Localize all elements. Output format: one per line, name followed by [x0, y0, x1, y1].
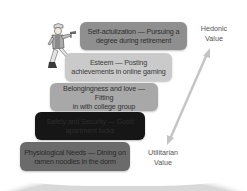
- hierarchy-level-safety: Safety and Security — Good apartment loc…: [35, 112, 145, 140]
- hedonic-label-line1: Hedonic: [196, 24, 232, 34]
- hierarchy-level-belongingness: Belongingness and love — Fitting in with…: [50, 83, 158, 111]
- level-text-line2: achievements in online gaming: [71, 67, 165, 76]
- level-text-line2: apartment locks: [46, 126, 133, 135]
- level-text-line2: ramen noodles in the dorm: [24, 157, 126, 166]
- hedonic-value-label: Hedonic Value: [196, 24, 232, 44]
- page-background: [0, 172, 247, 186]
- hedonic-label-line2: Value: [196, 34, 232, 44]
- level-text-line1: Belongingness and love — Fitting: [53, 84, 155, 102]
- level-text-line1: Esteem — Posting: [71, 58, 165, 67]
- level-text-line2: degree during retirement: [88, 36, 180, 45]
- diagram-canvas: Self-actulization — Pursuing a degree du…: [0, 0, 247, 191]
- hierarchy-level-esteem: Esteem — Posting achievements in online …: [65, 53, 172, 81]
- utilitarian-label-line2: Value: [142, 158, 184, 168]
- utilitarian-value-label: Utilitarian Value: [142, 148, 184, 168]
- level-text-line2: in with college group: [53, 102, 155, 111]
- utilitarian-label-line1: Utilitarian: [142, 148, 184, 158]
- level-text-line1: Safety and Security — Good: [46, 117, 133, 126]
- level-text-line1: Self-actulization — Pursuing a: [88, 27, 180, 36]
- hierarchy-level-physiological: Physiological Needs — Dining on ramen no…: [20, 142, 130, 171]
- hierarchy-level-self-actualization: Self-actulization — Pursuing a degree du…: [80, 22, 187, 50]
- level-text-line1: Physiological Needs — Dining on: [24, 148, 126, 157]
